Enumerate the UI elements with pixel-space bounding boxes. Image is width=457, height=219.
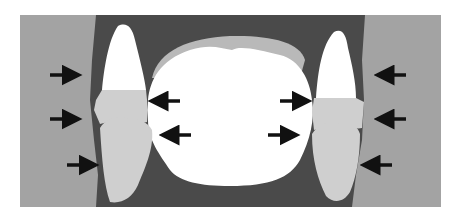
diagram-canvas: [0, 0, 457, 219]
right-cheek-region: [352, 15, 441, 207]
left-cheek-region: [20, 15, 98, 207]
dental-force-diagram: [0, 0, 457, 219]
tongue-region: [148, 47, 313, 186]
